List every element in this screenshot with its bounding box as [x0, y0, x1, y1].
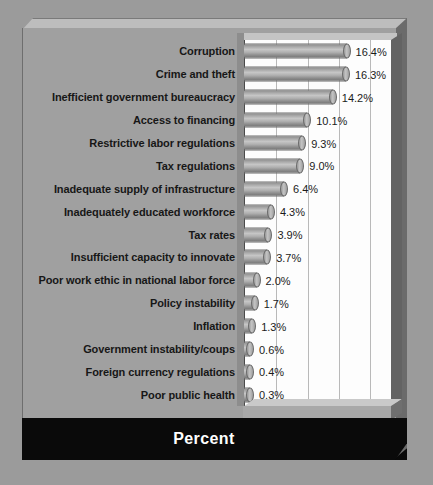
bar-value-label: 1.3%: [261, 320, 286, 332]
bar-row[interactable]: Inefficient government bureaucracy14.2%: [0, 86, 433, 109]
bar-row[interactable]: Inadequate supply of infrastructure6.4%: [0, 177, 433, 200]
bar-group: 16.3%: [244, 67, 386, 82]
bar-row[interactable]: Foreign currency regulations0.4%: [0, 360, 433, 383]
bar-category-label: Access to financing: [133, 114, 235, 126]
bar-end-cap: [264, 227, 272, 242]
bar-end-cap: [246, 342, 254, 357]
bar-value-label: 14.2%: [342, 91, 373, 103]
bar-end-cap: [296, 158, 304, 173]
bar-category-label: Poor public health: [141, 389, 235, 401]
bar-row[interactable]: Restrictive labor regulations9.3%: [0, 132, 433, 155]
bar-row[interactable]: Crime and theft16.3%: [0, 63, 433, 86]
bar-row[interactable]: Inflation1.3%: [0, 315, 433, 338]
bar[interactable]: [244, 44, 347, 59]
bar-category-label: Foreign currency regulations: [86, 366, 235, 378]
bar-end-cap: [280, 181, 288, 196]
bar-end-cap: [267, 204, 275, 219]
bar-value-label: 9.0%: [309, 160, 334, 172]
bar-category-label: Tax regulations: [156, 160, 235, 172]
bar-row[interactable]: Government instability/coups0.6%: [0, 338, 433, 361]
bar-group: 2.0%: [244, 273, 291, 288]
bar-value-label: 0.3%: [259, 389, 284, 401]
bar-end-cap: [246, 364, 254, 379]
bar-category-label: Corruption: [179, 45, 235, 57]
bar-value-label: 6.4%: [293, 183, 318, 195]
bar-category-label: Inefficient government bureaucracy: [52, 91, 235, 103]
bar-group: 4.3%: [244, 204, 305, 219]
bar-value-label: 1.7%: [264, 297, 289, 309]
bar[interactable]: [244, 296, 255, 311]
bar[interactable]: [244, 387, 250, 402]
bar-end-cap: [303, 113, 311, 128]
bar[interactable]: [244, 136, 302, 151]
bar[interactable]: [244, 250, 267, 265]
bar-end-cap: [251, 296, 259, 311]
bar-category-label: Inadequate supply of infrastructure: [54, 183, 235, 195]
bar[interactable]: [244, 204, 271, 219]
x-axis-title: Percent: [22, 418, 386, 460]
bar-category-label: Inflation: [193, 320, 235, 332]
bar-end-cap: [343, 44, 351, 59]
bar[interactable]: [244, 342, 250, 357]
bar[interactable]: [244, 181, 284, 196]
bar-end-cap: [253, 273, 261, 288]
bar-group: 3.9%: [244, 227, 302, 242]
bar-group: 0.4%: [244, 364, 284, 379]
bar-category-label: Insufficient capacity to innovate: [71, 251, 235, 263]
bar-value-label: 4.3%: [280, 206, 305, 218]
bar-category-label: Tax rates: [188, 229, 235, 241]
bar-category-label: Poor work ethic in national labor force: [38, 274, 235, 286]
bar-value-label: 0.4%: [259, 366, 284, 378]
bar-group: 9.3%: [244, 136, 336, 151]
bar-end-cap: [248, 319, 256, 334]
bar-group: 0.6%: [244, 342, 284, 357]
bar[interactable]: [244, 113, 307, 128]
bar-group: 3.7%: [244, 250, 301, 265]
bar-row[interactable]: Tax rates3.9%: [0, 223, 433, 246]
bar-group: 1.3%: [244, 319, 286, 334]
bar-end-cap: [329, 90, 337, 105]
bar-end-cap: [342, 67, 350, 82]
bar-row[interactable]: Access to financing10.1%: [0, 109, 433, 132]
bar-group: 9.0%: [244, 158, 334, 173]
bar-group: 6.4%: [244, 181, 318, 196]
bar-group: 10.1%: [244, 113, 347, 128]
bar-row[interactable]: Insufficient capacity to innovate3.7%: [0, 246, 433, 269]
bar-group: 1.7%: [244, 296, 289, 311]
bar-value-label: 2.0%: [266, 274, 291, 286]
bar-row[interactable]: Poor work ethic in national labor force2…: [0, 269, 433, 292]
bar-category-label: Inadequately educated workforce: [64, 206, 235, 218]
bar-end-cap: [263, 250, 271, 265]
bar-row[interactable]: Tax regulations9.0%: [0, 154, 433, 177]
bar[interactable]: [244, 364, 250, 379]
bar-value-label: 9.3%: [311, 137, 336, 149]
bar-category-label: Crime and theft: [156, 68, 235, 80]
plot-top-bevel: [237, 33, 397, 40]
bar-value-label: 3.9%: [277, 229, 302, 241]
bar[interactable]: [244, 319, 252, 334]
bar-group: 14.2%: [244, 90, 373, 105]
bar[interactable]: [244, 227, 268, 242]
bar-group: 16.4%: [244, 44, 387, 59]
bar-row[interactable]: Policy instability1.7%: [0, 292, 433, 315]
bar-value-label: 10.1%: [316, 114, 347, 126]
bar-end-cap: [298, 136, 306, 151]
bar[interactable]: [244, 67, 346, 82]
bar-rows: Corruption16.4%Crime and theft16.3%Ineff…: [0, 40, 433, 406]
bar[interactable]: [244, 158, 300, 173]
chart-container: Corruption16.4%Crime and theft16.3%Ineff…: [0, 0, 433, 485]
bar-row[interactable]: Inadequately educated workforce4.3%: [0, 200, 433, 223]
bar-category-label: Government instability/coups: [83, 343, 235, 355]
bar-row[interactable]: Corruption16.4%: [0, 40, 433, 63]
bar-value-label: 3.7%: [276, 251, 301, 263]
bar-value-label: 16.4%: [356, 45, 387, 57]
bar-value-label: 16.3%: [355, 68, 386, 80]
bar[interactable]: [244, 273, 257, 288]
bar-value-label: 0.6%: [259, 343, 284, 355]
bar[interactable]: [244, 90, 333, 105]
bar-category-label: Restrictive labor regulations: [89, 137, 235, 149]
bar-category-label: Policy instability: [150, 297, 235, 309]
